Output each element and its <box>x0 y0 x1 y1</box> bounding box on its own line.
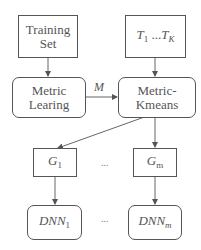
dnn1-symbol: DNN <box>39 213 66 228</box>
metric-kmeans-node: Metric-Kmeans <box>118 77 196 118</box>
t1-symbol: T <box>137 27 144 42</box>
dnn1-node: DNN1 <box>27 205 82 240</box>
dnn-ellipsis: ... <box>101 213 109 224</box>
gm-node: Gm <box>133 148 177 177</box>
t-dots: ... <box>148 27 161 42</box>
tk-subscript: K <box>168 34 174 44</box>
dnnm-subscript: m <box>165 220 172 230</box>
dnn1-subscript: 1 <box>66 220 71 230</box>
training-set-line1: Training <box>26 22 70 37</box>
training-set-line2: Set <box>40 36 57 51</box>
training-set-node: TrainingSet <box>18 15 78 58</box>
metric-learning-node: MetricLearing <box>12 77 86 118</box>
gm-symbol: G <box>147 153 156 168</box>
metric-learning-line1: Metric <box>32 83 67 98</box>
t-range-node: T1 ...TK <box>125 15 186 58</box>
metric-kmeans-line2: Kmeans <box>136 97 179 112</box>
dnnm-symbol: DNN <box>138 213 165 228</box>
gm-subscript: m <box>156 160 163 170</box>
metric-kmeans-line1: Metric- <box>138 83 177 98</box>
dnnm-node: DNNm <box>128 205 182 240</box>
g1-subscript: 1 <box>57 160 62 170</box>
metric-learning-line2: Learing <box>29 97 69 112</box>
m-edge-label: M <box>94 80 104 95</box>
g-ellipsis: ... <box>101 157 109 168</box>
g1-node: G1 <box>33 148 77 177</box>
